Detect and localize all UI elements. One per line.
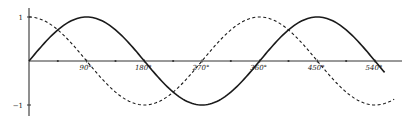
sine-cosine-chart: 90°180°270°360°450°540° 1−1 (0, 0, 416, 123)
x-tick-label: 90° (79, 64, 91, 72)
y-tick-label: −1 (13, 102, 23, 110)
x-minor-tick (114, 60, 116, 62)
y-tick-labels: 1−1 (13, 14, 31, 110)
x-minor-tick (230, 60, 232, 62)
x-minor-tick (172, 60, 174, 62)
x-minor-tick (345, 60, 347, 62)
x-minor-tick (287, 60, 289, 62)
x-minor-tick (57, 60, 59, 62)
y-tick-label: 1 (19, 14, 23, 22)
x-tick-label: 450° (307, 64, 325, 72)
